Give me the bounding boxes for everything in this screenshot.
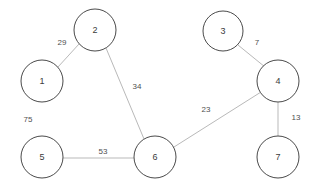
edge-2-6	[106, 48, 144, 139]
edge-1-2	[58, 44, 79, 67]
edge-weight-5-6: 53	[99, 148, 108, 156]
node-label-5: 5	[39, 153, 44, 162]
node-label-4: 4	[275, 77, 280, 86]
orphan-weight-label: 75	[24, 116, 33, 124]
graph-diagram-canvas: 1 2 3 4 5 6 7 29 34 53 23 7 13 75	[0, 0, 315, 184]
node-label-3: 3	[220, 27, 225, 36]
edge-weight-6-4: 23	[202, 106, 211, 114]
edge-weight-4-7: 13	[292, 114, 301, 122]
edge-weight-2-6: 34	[133, 83, 142, 91]
edge-3-4	[238, 45, 265, 67]
edge-weight-1-2: 29	[58, 39, 67, 47]
node-label-7: 7	[275, 153, 280, 162]
node-label-2: 2	[92, 26, 97, 35]
node-label-6: 6	[152, 153, 157, 162]
edge-weight-3-4: 7	[255, 39, 259, 47]
node-layer	[21, 9, 299, 178]
edge-6-4	[174, 92, 261, 147]
node-label-1: 1	[39, 77, 44, 86]
